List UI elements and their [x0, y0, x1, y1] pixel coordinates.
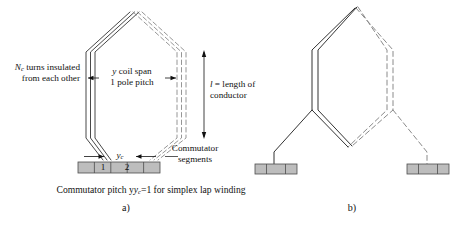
commutator-bar-b-right-body: [407, 164, 449, 174]
span-arrow-right-head: [171, 76, 177, 80]
turns-label-line2: from each other: [22, 73, 80, 83]
length-arrow-head-bottom: [202, 132, 206, 139]
commutator-segments-label: Commutator segments: [152, 143, 238, 165]
turns-label-line1: turns insulated: [24, 62, 80, 72]
panel-b-coil: [255, 7, 449, 174]
commutator-segments-line2: segments: [178, 154, 212, 164]
panel-a-title-text: a): [122, 202, 130, 213]
turns-label: Nc turns insulated from each other: [2, 62, 80, 84]
conductor-length-dimension: [202, 50, 206, 139]
commutator-pitch-label: yc: [106, 150, 134, 161]
coil-span-label: y coil span 1 pole pitch: [99, 66, 165, 88]
coil-b-solid-path-inner: [318, 7, 357, 146]
commutator-bar-b-left-body: [255, 164, 297, 174]
commutator-bar-b-left: [255, 164, 297, 174]
coil-b-solid-lead: [274, 110, 312, 165]
pitch-arrow-right-head: [136, 154, 142, 158]
segment-number-1-text: 1: [101, 162, 106, 172]
coil-b-solid: [274, 7, 357, 165]
commutator-segments-line1: Commutator: [172, 143, 218, 153]
commutator-pitch-subscript: c: [121, 153, 124, 160]
coil-b-dashed: [348, 7, 427, 165]
coil-b-dashed-lead: [393, 110, 427, 165]
segment-number-2: 2: [119, 162, 135, 173]
panel-a-caption-head: Commutator pitch y: [56, 184, 133, 195]
coil-span-label-line2: 1 pole pitch: [110, 77, 153, 87]
segment-number-1: 1: [95, 162, 111, 173]
panel-a-title: a): [106, 202, 146, 214]
length-arrow-head-top: [202, 50, 206, 57]
conductor-length-line2: conductor: [210, 90, 247, 100]
panel-a-caption-tail: =1 for simplex lap winding: [141, 184, 246, 195]
commutator-bar-b-right: [407, 164, 449, 174]
figure-root: Nc turns insulated from each other y coi…: [0, 0, 453, 229]
coil-span-label-line1: coil span: [116, 66, 151, 76]
conductor-length-label: l = length of conductor: [210, 79, 280, 101]
panel-b-title-text: b): [348, 202, 356, 213]
conductor-length-line1: = length of: [213, 79, 256, 89]
panel-a-caption: Commutator pitch yyc=1 for simplex lap w…: [26, 184, 276, 196]
coil-b-dashed-path-inner: [348, 7, 387, 147]
panel-b-title: b): [332, 202, 372, 214]
segment-number-2-text: 2: [125, 162, 130, 172]
